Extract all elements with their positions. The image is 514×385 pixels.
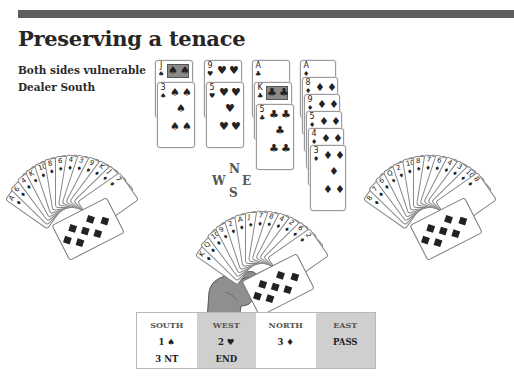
spades-icon: ♠ <box>170 87 180 98</box>
card-index: 5♣ <box>259 106 265 122</box>
diamonds-icon: ♦ <box>327 82 337 93</box>
card-rank: 8♦ <box>466 176 481 188</box>
bid: END <box>197 354 257 364</box>
hearts-icon: ♥ <box>217 65 227 76</box>
clubs-icon: ♣ <box>259 114 265 122</box>
diamonds-icon: ♦ <box>313 155 319 163</box>
hearts-icon: ♥ <box>219 121 229 132</box>
diamond-icon <box>444 215 453 224</box>
diamond-icon <box>421 236 430 245</box>
suit-icon: ♦ <box>238 223 244 231</box>
diamond-icon <box>76 238 85 247</box>
clubs-icon: ♣ <box>267 87 277 98</box>
diamond-icon <box>276 271 285 280</box>
diamond-icon <box>93 229 102 238</box>
hearts-icon: ♥ <box>231 121 241 132</box>
bid: 1 ♠ <box>137 337 197 347</box>
clubs-icon: ♣ <box>269 109 279 120</box>
diamond-icon <box>426 224 435 233</box>
diamond-icon <box>266 294 275 303</box>
diamonds-icon: ♦ <box>335 150 345 161</box>
top-rule <box>18 10 514 18</box>
spades-icon: ♠ <box>182 87 192 98</box>
card-rank: 8♦ <box>416 158 421 172</box>
clubs-icon: ♣ <box>279 87 289 98</box>
diamonds-icon: ♦ <box>329 166 339 177</box>
spades-icon: ♠ <box>176 103 186 114</box>
bid-column-south: SOUTH 1 ♠ 3 NT <box>137 313 197 368</box>
diamonds-icon: ♦ <box>335 184 345 195</box>
suit-icon: ♦ <box>466 180 475 188</box>
seat-header: SOUTH <box>137 320 197 330</box>
spades-icon: ♠ <box>170 121 180 132</box>
card-rank: 2♦ <box>298 232 313 244</box>
diamonds-icon: ♦ <box>317 99 327 110</box>
seat-header: EAST <box>316 320 376 330</box>
diamonds-icon: ♦ <box>319 116 329 127</box>
seat-header: WEST <box>197 320 257 330</box>
card-index: K♣ <box>257 84 263 100</box>
west-hand: A♦6♦4♦K♦10♦8♦6♦4♦3♦9♦K♦J♦7♦ <box>72 226 73 227</box>
diamond-icon <box>63 236 72 245</box>
diamond-icon <box>86 215 95 224</box>
card-index: 3♠ <box>160 84 166 100</box>
suit-icon: ♦ <box>108 180 117 188</box>
diamond-icon <box>100 217 109 226</box>
card-rank: 7♦ <box>108 176 123 188</box>
spades-icon: ♠ <box>158 70 164 78</box>
clubs-icon: ♣ <box>257 92 263 100</box>
card-index: 4♦ <box>311 130 317 146</box>
diamond-icon <box>434 238 443 247</box>
card-rank: A♦ <box>237 216 245 231</box>
clubs-icon: ♣ <box>281 109 291 120</box>
diamonds-icon: ♦ <box>323 150 333 161</box>
compass-east: E <box>242 174 251 188</box>
diamonds-icon: ♦ <box>323 184 333 195</box>
bid: 2 ♥ <box>197 337 257 347</box>
clubs-icon: ♣ <box>269 143 279 154</box>
spades-icon: ♠ <box>180 65 190 76</box>
compass-west: W <box>212 174 225 188</box>
hearts-icon: ♥ <box>229 65 239 76</box>
card-diamonds-3: 3♦♦♦♦♦♦ <box>310 145 346 211</box>
suit-icon: ♦ <box>48 167 54 175</box>
seat-header: NORTH <box>256 320 316 330</box>
diamond-icon <box>458 217 467 226</box>
card-clubs-5: 5♣♣♣♣♣♣ <box>256 104 294 170</box>
page-title: Preserving a tenace <box>18 26 245 51</box>
diamond-icon <box>283 285 292 294</box>
south-hand: K♦Q♦10♦9♦2♦A♦J♦7♦8♦4♦2♦6♦2♦ <box>262 282 263 283</box>
diamonds-icon: ♦ <box>321 133 331 144</box>
bid: PASS <box>316 337 376 347</box>
diamond-icon <box>271 283 280 292</box>
diamond-icon <box>451 229 460 238</box>
diamonds-icon: ♦ <box>333 133 343 144</box>
card-index: 3♦ <box>313 147 319 163</box>
card-index: 5♦ <box>309 113 315 129</box>
card-index: J♠ <box>158 62 164 78</box>
diamond-icon <box>253 292 262 301</box>
card-index: A♣ <box>255 62 261 78</box>
spades-icon: ♠ <box>160 92 166 100</box>
card-rank: 6♦ <box>58 158 63 172</box>
card-index: 9♥ <box>207 62 213 78</box>
card-rank: J♦ <box>248 214 253 228</box>
card-index: A♦ <box>303 62 309 78</box>
card-index: 5♥ <box>209 84 215 100</box>
bid: 3 ♦ <box>256 337 316 347</box>
hearts-icon: ♥ <box>231 87 241 98</box>
card-rank: 8♦ <box>47 160 55 175</box>
east-hand: 8♦7♦6♦Q♦2♦10♦8♦7♦6♦4♦3♦10♦8♦ <box>430 226 431 227</box>
card-spades-3: 3♠♠♠♠♠♠ <box>157 82 195 148</box>
compass-north: N <box>229 162 240 176</box>
card-index: 8♦ <box>305 79 311 95</box>
clubs-icon: ♣ <box>255 70 261 78</box>
diamond-icon <box>290 273 299 282</box>
diamonds-icon: ♦ <box>329 99 339 110</box>
bid-column-north: NORTH 3 ♦ <box>256 313 316 368</box>
clubs-icon: ♣ <box>275 125 285 136</box>
vulnerability-label: Both sides vulnerable <box>18 64 146 76</box>
bid-column-west: WEST 2 ♥ END <box>197 313 257 368</box>
clubs-icon: ♣ <box>281 143 291 154</box>
diamonds-icon: ♦ <box>331 116 341 127</box>
